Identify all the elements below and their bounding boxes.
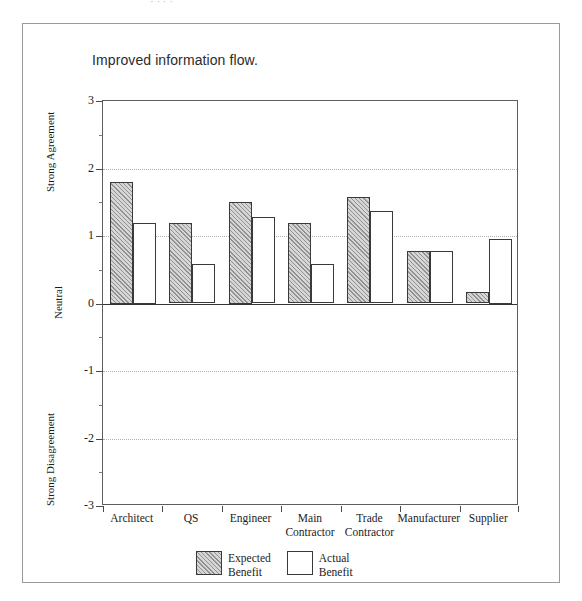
- legend-swatch: [196, 551, 222, 575]
- y-axis-tick-label: 2: [72, 160, 94, 175]
- gridline: [103, 439, 517, 440]
- y-axis-minor-tick: [99, 270, 103, 271]
- y-axis-annotation-strong-disagreement: Strong Disagreement: [44, 420, 56, 506]
- legend-item: Actual Benefit: [287, 551, 353, 579]
- bar: [407, 251, 430, 304]
- y-axis-tick-label: -1: [72, 363, 94, 378]
- bar: [133, 223, 156, 304]
- scanned-page: · · · · Improved information flow. Stron…: [0, 0, 582, 601]
- gridline: [103, 371, 517, 372]
- y-axis-tick: [96, 506, 103, 507]
- y-axis-minor-tick: [99, 135, 103, 136]
- bar: [489, 239, 512, 303]
- chart-legend: Expected BenefitActual Benefit: [196, 551, 396, 581]
- y-axis-tick: [96, 371, 103, 372]
- bar: [347, 197, 370, 304]
- y-axis-minor-tick: [99, 405, 103, 406]
- bar: [370, 211, 393, 303]
- y-axis-annotation-neutral: Neutral: [52, 278, 64, 328]
- zero-axis-line: [103, 304, 517, 305]
- bar: [466, 292, 489, 303]
- y-axis-annotation-strong-agreement: Strong Agreement: [44, 112, 56, 192]
- bar: [430, 251, 453, 304]
- legend-swatch: [287, 551, 313, 575]
- bar: [110, 182, 133, 304]
- legend-item: Expected Benefit: [196, 551, 271, 579]
- x-axis-tick-labels: ArchitectQSEngineerMain ContractorTrade …: [102, 511, 518, 551]
- y-axis-tick: [96, 439, 103, 440]
- y-axis-tick-label: 3: [72, 93, 94, 108]
- y-axis-tick-label: 0: [72, 295, 94, 310]
- y-axis-minor-tick: [99, 337, 103, 338]
- y-axis-tick-label: 1: [72, 228, 94, 243]
- legend-label: Expected Benefit: [228, 551, 271, 579]
- x-axis-tick-label: Supplier: [453, 511, 524, 525]
- y-axis-tick-label: -2: [72, 430, 94, 445]
- legend-label: Actual Benefit: [319, 551, 353, 579]
- y-axis-tick: [96, 101, 103, 102]
- y-axis-tick-label: -3: [72, 498, 94, 513]
- y-axis-tick: [96, 304, 103, 305]
- y-axis-tick: [96, 236, 103, 237]
- bar: [169, 223, 192, 303]
- bar: [252, 217, 275, 303]
- y-axis-tick: [96, 169, 103, 170]
- bar: [192, 264, 215, 304]
- page-top-cut-text: · · · ·: [150, 0, 410, 5]
- bar: [311, 264, 334, 304]
- chart-title: Improved information flow.: [92, 52, 258, 68]
- y-axis-minor-tick: [99, 202, 103, 203]
- gridline: [103, 169, 517, 170]
- plot-area: [102, 100, 518, 505]
- bar: [229, 202, 252, 303]
- y-axis-minor-tick: [99, 472, 103, 473]
- y-axis-tick-labels: 3210-1-2-3: [70, 100, 94, 505]
- bar: [288, 223, 311, 303]
